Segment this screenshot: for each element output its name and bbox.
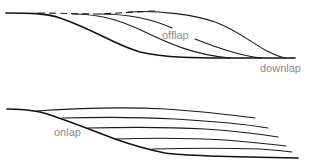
stratal-terminations-diagram: offlap downlap onlap: [0, 0, 310, 167]
offlap-panel: offlap downlap: [6, 11, 301, 74]
offlap-label: offlap: [162, 29, 189, 41]
clinoform-3: [100, 14, 172, 28]
onlap-layer-5: [152, 148, 292, 152]
onlap-label: onlap: [54, 126, 81, 138]
onlap-panel: onlap: [7, 108, 298, 158]
onlap-layer-1: [36, 108, 255, 118]
onlap-layer-3: [88, 127, 278, 137]
onlap-layer-4: [115, 138, 286, 146]
onlap-layer-2: [62, 117, 268, 128]
downlap-label: downlap: [260, 62, 301, 74]
